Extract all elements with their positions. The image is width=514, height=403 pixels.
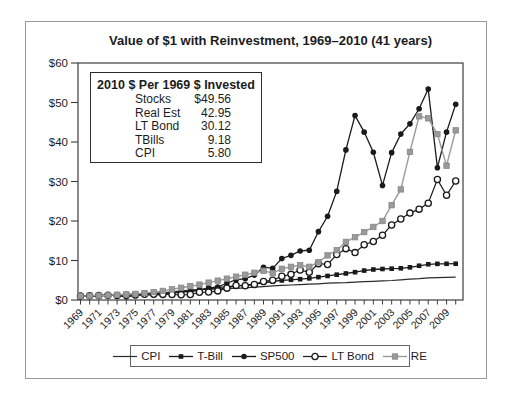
legend-item-re: RE	[383, 350, 427, 362]
stats-box: 2010 $ Per 1969 $ Invested Stocks$49.56R…	[90, 72, 262, 163]
x-tick-label: 2009	[426, 306, 451, 331]
legend-marker-cpi	[113, 351, 137, 362]
y-tick-label: $40	[49, 136, 68, 148]
legend-marker-t-bill	[169, 351, 193, 362]
legend-item-sp500: SP500	[232, 350, 295, 362]
legend-marker-re	[383, 351, 407, 362]
stats-row-stocks: Stocks$49.56	[91, 93, 261, 107]
plot-area: $0$10$20$30$40$50$6019691971197319751977…	[0, 0, 514, 403]
stats-row-lt-bond: LT Bond30.12	[91, 120, 261, 134]
legend-label: CPI	[141, 350, 160, 362]
stats-row-tbills: TBills9.18	[91, 134, 261, 148]
y-tick-label: $20	[49, 215, 68, 227]
chart-title: Value of $1 with Reinvestment, 1969–2010…	[78, 33, 463, 48]
y-tick-label: $10	[49, 255, 68, 267]
legend-label: RE	[411, 350, 427, 362]
legend-item-cpi: CPI	[113, 350, 160, 362]
legend-label: LT Bond	[331, 350, 373, 362]
y-tick-label: $50	[49, 97, 68, 109]
stats-box-header: 2010 $ Per 1969 $ Invested	[91, 73, 261, 93]
stats-row-cpi: CPI5.80	[91, 147, 261, 161]
y-tick-label: $30	[49, 176, 68, 188]
chart-page: $0$10$20$30$40$50$6019691971197319751977…	[0, 0, 514, 403]
series-lt-bond	[77, 176, 458, 299]
legend-label: SP500	[260, 350, 295, 362]
y-tick-label: $60	[49, 57, 68, 69]
y-tick-label: $0	[55, 294, 68, 306]
stats-value: 42.95	[201, 107, 231, 121]
legend-item-lt-bond: LT Bond	[303, 350, 373, 362]
legend-marker-sp500	[232, 351, 256, 362]
stats-value: 9.18	[208, 134, 231, 148]
stats-value: 30.12	[201, 120, 231, 134]
stats-label: TBills	[135, 134, 164, 148]
legend: CPIT-BillSP500LT BondRE	[130, 345, 410, 367]
stats-row-real-est: Real Est42.95	[91, 107, 261, 121]
stats-label: Stocks	[135, 93, 171, 107]
stats-rows: Stocks$49.56Real Est42.95LT Bond30.12TBi…	[91, 93, 261, 161]
stats-value: 5.80	[208, 147, 231, 161]
legend-label: T-Bill	[197, 350, 223, 362]
stats-value: $49.56	[194, 93, 231, 107]
x-axis: 1969197119731975197719791981198319851987…	[60, 300, 455, 331]
stats-label: LT Bond	[135, 120, 179, 134]
stats-label: Real Est	[135, 107, 180, 121]
legend-item-t-bill: T-Bill	[169, 350, 223, 362]
y-axis: $0$10$20$30$40$50$60	[49, 57, 78, 306]
stats-label: CPI	[135, 147, 155, 161]
legend-marker-lt-bond	[303, 351, 327, 362]
